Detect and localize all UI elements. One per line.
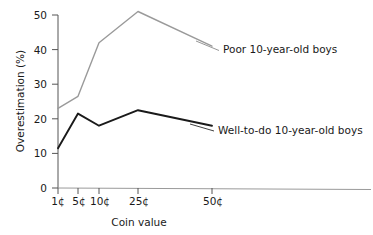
series-label-wealthy: Well-to-do 10-year-old boys [218, 124, 363, 136]
y-tick-label-10: 10 [34, 147, 47, 159]
x-tick-label-5c: 5¢ [72, 195, 85, 207]
series-label-poor: Poor 10-year-old boys [223, 43, 337, 55]
y-tick-label-50: 50 [34, 9, 47, 21]
line-chart-figure: 50 40 30 20 10 0 Overestimation (%) 1¢ 5… [0, 0, 373, 235]
y-tick-label-30: 30 [34, 78, 47, 90]
x-tick-label-25c: 25¢ [129, 195, 149, 207]
y-axis-title: Overestimation (%) [14, 50, 26, 152]
y-tick-label-20: 20 [34, 113, 47, 125]
x-tick-label-1c: 1¢ [51, 195, 64, 207]
x-tick-label-50c: 50¢ [203, 195, 223, 207]
y-tick-label-40: 40 [34, 44, 47, 56]
chart-canvas: 50 40 30 20 10 0 Overestimation (%) 1¢ 5… [0, 0, 373, 235]
y-tick-label-0: 0 [40, 182, 47, 194]
x-axis-title: Coin value [111, 216, 166, 228]
x-tick-label-10c: 10¢ [90, 195, 110, 207]
